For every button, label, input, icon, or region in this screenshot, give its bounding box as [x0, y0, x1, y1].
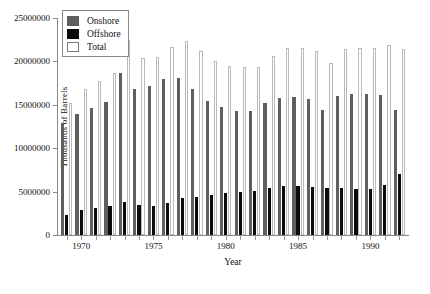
bar-offshore [398, 174, 401, 235]
bar-group [191, 18, 202, 235]
bar-group [263, 18, 274, 235]
bar-onshore [292, 97, 295, 235]
bar-group [292, 18, 303, 235]
x-tick-mark [81, 235, 82, 240]
bar-total [170, 47, 173, 235]
chart-legend: Onshore Offshore Total [62, 10, 129, 57]
bar-total [344, 49, 347, 235]
bar-offshore [224, 193, 227, 235]
bar-group [148, 18, 159, 235]
bar-onshore [278, 98, 281, 235]
bar-total [315, 51, 318, 235]
x-tick-mark [269, 235, 270, 240]
bar-offshore [123, 202, 126, 235]
x-tick-mark [298, 235, 299, 240]
x-tick-mark [284, 235, 285, 240]
bar-offshore [354, 189, 357, 235]
bar-group [379, 18, 390, 235]
bar-onshore [307, 99, 310, 235]
bar-offshore [369, 189, 372, 235]
legend-item-total: Total [67, 40, 121, 53]
x-tick-mark [313, 235, 314, 240]
x-tick-label: 1985 [289, 242, 307, 251]
bar-offshore [94, 208, 97, 235]
legend-item-onshore: Onshore [67, 14, 121, 27]
bar-onshore [191, 89, 194, 235]
x-tick-mark [327, 235, 328, 240]
bar-group [278, 18, 289, 235]
x-tick-mark [153, 235, 154, 240]
legend-label-onshore: Onshore [87, 16, 119, 26]
bar-onshore [119, 73, 122, 235]
bar-offshore [383, 185, 386, 235]
bar-onshore [162, 79, 165, 235]
bar-total [214, 61, 217, 235]
bar-group [350, 18, 361, 235]
bar-onshore [177, 78, 180, 235]
x-tick-mark [110, 235, 111, 240]
bar-total [185, 41, 188, 235]
bar-total [199, 51, 202, 235]
bar-onshore [235, 111, 238, 235]
bar-total [358, 48, 361, 235]
y-tick-label: 25000000 [14, 14, 50, 23]
bar-onshore [350, 94, 353, 235]
bar-total [286, 48, 289, 235]
bar-offshore [195, 197, 198, 235]
x-tick-mark [197, 235, 198, 240]
y-tick-mark [53, 235, 58, 236]
bar-group [336, 18, 347, 235]
bar-onshore [133, 89, 136, 235]
bar-offshore [325, 188, 328, 235]
bar-group [394, 18, 405, 235]
bar-onshore [220, 107, 223, 235]
bar-total [98, 81, 101, 235]
bar-onshore [104, 102, 107, 235]
bar-total [402, 49, 405, 235]
legend-swatch-total [67, 42, 79, 52]
y-tick-label: 10000000 [14, 144, 50, 153]
x-tick-label: 1990 [361, 242, 379, 251]
bar-offshore [65, 215, 68, 235]
bar-group [307, 18, 318, 235]
y-tick-label: 5000000 [19, 188, 51, 197]
x-tick-mark [139, 235, 140, 240]
bar-offshore [340, 188, 343, 235]
bar-onshore [379, 95, 382, 235]
bar-total [272, 56, 275, 235]
bar-total [257, 67, 260, 235]
bar-onshore [394, 110, 397, 235]
x-tick-mark [240, 235, 241, 240]
bar-offshore [253, 191, 256, 235]
bar-offshore [311, 187, 314, 235]
bar-total [243, 67, 246, 235]
bar-chart: Thousands of Barrels 0500000010000000150… [0, 0, 430, 294]
bar-offshore [239, 192, 242, 235]
bar-group [220, 18, 231, 235]
legend-label-offshore: Offshore [87, 29, 121, 39]
bar-offshore [210, 195, 213, 235]
bar-group [235, 18, 246, 235]
bar-group [321, 18, 332, 235]
x-tick-mark [182, 235, 183, 240]
bar-offshore [80, 210, 83, 235]
bar-group [365, 18, 376, 235]
bar-total [127, 40, 130, 235]
y-tick-label: 20000000 [14, 57, 50, 66]
bar-onshore [90, 108, 93, 235]
legend-swatch-offshore [67, 29, 79, 39]
bar-onshore [206, 101, 209, 235]
bar-total [69, 103, 72, 235]
bar-total [301, 48, 304, 235]
bar-total [387, 45, 390, 235]
x-tick-label: 1975 [144, 242, 162, 251]
bar-onshore [75, 114, 78, 235]
bar-onshore [321, 110, 324, 235]
bar-group [206, 18, 217, 235]
x-tick-mark [399, 235, 400, 240]
bar-offshore [181, 198, 184, 235]
bar-offshore [137, 205, 140, 235]
bar-total [141, 58, 144, 235]
x-tick-mark [356, 235, 357, 240]
bar-offshore [152, 206, 155, 235]
